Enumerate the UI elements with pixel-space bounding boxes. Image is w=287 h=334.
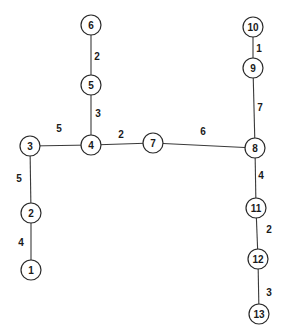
node-4: 4 [81,135,101,155]
edge-weight-label: 2 [94,51,100,62]
node-3: 3 [20,136,40,156]
tree-diagram: 235265417423 12345678910111213 [0,0,287,334]
node-label: 8 [252,143,258,154]
node-label: 2 [28,208,34,219]
node-10: 10 [243,17,263,37]
node-8: 8 [245,138,265,158]
edge-weight-label: 3 [266,287,272,298]
edge-weights-layer: 235265417423 [16,43,272,298]
edges-layer [30,25,259,314]
node-label: 13 [253,309,265,320]
node-11: 11 [246,198,266,218]
node-label: 12 [252,254,264,265]
edge-weight-label: 5 [56,123,62,134]
edge-weight-label: 4 [18,237,24,248]
node-2: 2 [21,203,41,223]
edge-weight-label: 6 [200,126,206,137]
node-12: 12 [248,249,268,269]
edge-weight-label: 3 [95,108,101,119]
node-9: 9 [243,58,263,78]
edge-weight-label: 5 [16,173,22,184]
node-label: 5 [88,80,94,91]
node-label: 3 [27,141,33,152]
edge-weight-label: 1 [256,43,262,54]
edge-9-8 [253,68,255,148]
node-label: 10 [247,22,259,33]
node-label: 1 [28,265,34,276]
edge-weight-label: 4 [258,170,264,181]
edge-weight-label: 7 [257,102,263,113]
node-label: 11 [251,203,262,214]
nodes-layer: 12345678910111213 [20,15,269,324]
node-7: 7 [143,133,163,153]
node-label: 6 [88,20,94,31]
node-5: 5 [81,75,101,95]
node-label: 4 [88,140,94,151]
node-label: 9 [250,63,256,74]
edge-weight-label: 2 [118,129,124,140]
node-1: 1 [21,260,41,280]
edge-7-8 [153,143,255,148]
node-6: 6 [81,15,101,35]
node-13: 13 [249,304,269,324]
node-label: 7 [150,138,156,149]
edge-weight-label: 2 [266,224,272,235]
